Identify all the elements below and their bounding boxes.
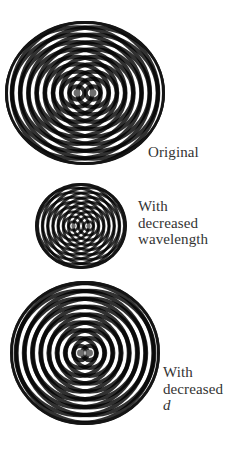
caption-original: Original xyxy=(148,144,199,161)
caption-line: With xyxy=(163,364,223,381)
caption-decreased-wavelength: With decreased wavelength xyxy=(138,198,208,248)
caption-variable-d: d xyxy=(163,397,223,414)
caption-line: decreased xyxy=(163,381,223,398)
caption-line: With xyxy=(138,198,208,215)
caption-decreased-d: With decreased d xyxy=(163,364,223,414)
interference-pattern-decreased-wavelength xyxy=(12,168,151,284)
caption-line: decreased xyxy=(138,215,208,232)
interference-figure: Original With decreased wavelength With … xyxy=(0,0,236,449)
interference-pattern-decreased-d xyxy=(0,267,179,439)
caption-line: wavelength xyxy=(138,231,208,248)
caption-line: Original xyxy=(148,144,199,161)
